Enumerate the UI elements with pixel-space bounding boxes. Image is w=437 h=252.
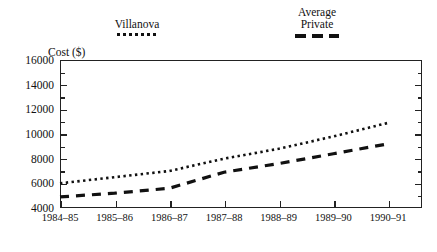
chart-container: Villanova Average Private Cost ($) 16000… [0, 0, 437, 252]
series-svg [0, 0, 437, 252]
series-line-villanova [60, 123, 388, 183]
series-line-average-private [60, 144, 388, 197]
series-layer [0, 0, 437, 252]
